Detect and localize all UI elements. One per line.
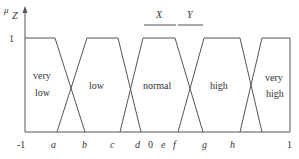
set-label-very-low-1: very <box>33 70 51 81</box>
set-label-low: low <box>89 80 105 91</box>
y-axis-label: μ <box>3 5 9 15</box>
set-label-normal: normal <box>143 80 172 91</box>
x-axis-label: Z <box>12 10 18 21</box>
mf-very-low <box>25 38 85 132</box>
x-tick-g: g <box>202 139 207 150</box>
membership-chart: μ Z 1 very low low normal high very high… <box>0 0 299 159</box>
set-label-very-high-2: high <box>266 88 284 99</box>
y-axis-arrow-icon <box>23 6 28 13</box>
mf-very-high <box>240 38 290 132</box>
x-tick-e: e <box>161 139 166 150</box>
annotation-x: X <box>155 9 163 20</box>
x-tick-d: d <box>135 139 141 150</box>
x-tick-c: c <box>110 139 115 150</box>
x-tick-f: f <box>173 139 177 150</box>
y-tick-1: 1 <box>9 33 14 44</box>
x-tick-1: 1 <box>287 139 292 150</box>
set-label-very-high-1: very <box>265 72 283 83</box>
x-tick-0: 0 <box>148 139 153 150</box>
set-label-high: high <box>210 80 228 91</box>
x-tick-minus-1: -1 <box>17 139 25 150</box>
annotation-y: Y <box>187 9 194 20</box>
set-label-very-low-2: low <box>35 87 51 98</box>
x-tick-h: h <box>230 139 235 150</box>
x-tick-a: a <box>51 139 56 150</box>
x-tick-b: b <box>82 139 87 150</box>
